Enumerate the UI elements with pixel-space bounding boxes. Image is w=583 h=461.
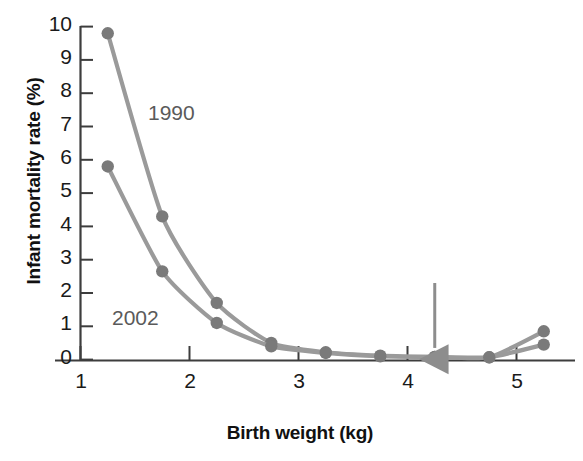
y-axis-ticks [81,27,94,360]
y-tick-label-5: 5 [44,178,72,202]
y-tick-label-4: 4 [44,212,72,236]
series-label-1990: 1990 [148,101,195,125]
y-tick-label-8: 8 [44,78,72,102]
series-1990 [102,27,550,363]
y-tick-label-9: 9 [44,45,72,69]
y-tick-label-2: 2 [44,278,72,302]
x-axis-title: Birth weight (kg) [185,422,415,444]
data-point [211,317,223,329]
data-point [429,351,441,363]
data-point [265,340,277,352]
data-point [102,160,114,172]
y-axis-title: Infant mortality rate (%) [23,61,45,301]
data-point [102,27,114,39]
x-tick-label-4: 4 [394,369,422,393]
x-tick-label-5: 5 [503,369,531,393]
data-point [483,351,495,363]
data-series-layer [102,27,550,363]
series-line-1990 [108,33,544,358]
chart-figure: 10 9 8 7 6 5 4 3 2 1 0 1 2 3 4 5 Infant … [0,0,583,461]
y-tick-label-7: 7 [44,112,72,136]
data-point [156,210,168,222]
x-tick-label-1: 1 [67,369,95,393]
y-tick-label-10: 10 [44,12,72,36]
data-point [320,347,332,359]
data-point [156,265,168,277]
y-tick-label-3: 3 [44,245,72,269]
data-point [538,338,550,350]
y-tick-label-6: 6 [44,145,72,169]
x-tick-label-2: 2 [176,369,204,393]
series-2002 [102,160,550,363]
data-point [538,325,550,337]
data-point [211,297,223,309]
series-line-2002 [108,166,544,357]
series-label-2002: 2002 [112,306,159,330]
data-point [374,350,386,362]
y-tick-label-0: 0 [44,345,72,369]
x-tick-label-3: 3 [285,369,313,393]
y-tick-label-1: 1 [44,311,72,335]
